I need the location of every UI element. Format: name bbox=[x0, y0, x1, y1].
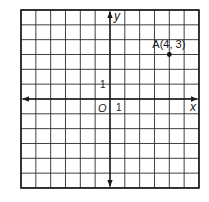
x-axis-label: x bbox=[189, 100, 197, 114]
y-axis-label: y bbox=[113, 9, 121, 23]
point-a-label: A(4, 3) bbox=[152, 38, 185, 50]
coordinate-plane: y x O 1 1 A(4, 3) bbox=[0, 0, 209, 202]
x-tick-label: 1 bbox=[116, 102, 122, 113]
point-a bbox=[167, 52, 172, 57]
origin-label: O bbox=[98, 102, 107, 114]
y-tick-label: 1 bbox=[100, 79, 106, 90]
